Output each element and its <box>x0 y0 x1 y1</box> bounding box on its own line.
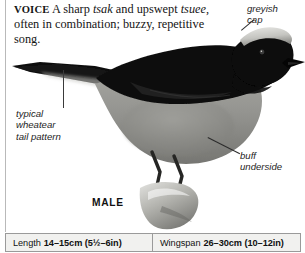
measurement-length: Length 14–15cm (5½–6in) <box>5 233 153 252</box>
annotation-greyish-cap: greyish cap <box>247 3 278 26</box>
voice-label: VOICE <box>14 4 50 15</box>
measurement-length-key: Length <box>13 238 41 248</box>
sex-caption: MALE <box>92 197 124 208</box>
leader-line-buff-underside <box>208 137 241 154</box>
annotation-buff-underside: buff underside <box>240 150 282 173</box>
voice-description: VOICE A sharp tsak and upswept tsuee, of… <box>14 2 229 48</box>
measurement-length-value: 14–15cm (5½–6in) <box>44 238 122 248</box>
bird-legs <box>148 152 186 201</box>
left-margin-rule <box>5 0 6 232</box>
voice-call-tsak: tsak <box>93 2 113 16</box>
perch-rock-shadow <box>160 206 192 222</box>
voice-text-2: and upswept <box>113 2 181 16</box>
bird-throat <box>232 74 272 94</box>
measurement-wingspan-value: 26–30cm (10–12in) <box>203 238 283 248</box>
tail-underside-highlight <box>40 72 150 92</box>
perch-rock <box>140 182 199 229</box>
field-guide-figure: VOICE A sharp tsak and upswept tsuee, of… <box>0 0 305 253</box>
leader-line-tail-pattern <box>63 70 64 108</box>
measurement-wingspan-key: Wingspan <box>160 238 200 248</box>
measurements-bar: Length 14–15cm (5½–6in) Wingspan 26–30cm… <box>5 233 301 252</box>
bird-tail <box>12 62 160 92</box>
annotation-tail-pattern: typical wheatear tail pattern <box>16 108 61 142</box>
bird-eye-highlight <box>261 50 263 52</box>
measurement-wingspan: Wingspan 26–30cm (10–12in) <box>153 233 301 252</box>
bird-eye <box>260 50 265 55</box>
bird-underside <box>95 70 262 164</box>
perch-rock-highlight <box>148 189 190 200</box>
bird-head <box>232 31 294 86</box>
voice-text-1: A sharp <box>50 2 93 16</box>
bird-flank-shading <box>122 96 234 156</box>
bird-bill-gape <box>288 62 303 65</box>
bird-bill <box>282 58 305 68</box>
bird-upperparts <box>96 45 280 104</box>
voice-call-tsuee: tsuee <box>181 2 206 16</box>
wing-covert-line <box>150 90 230 97</box>
bird-greyish-cap <box>240 27 292 46</box>
wing-feather-edge <box>130 82 232 99</box>
